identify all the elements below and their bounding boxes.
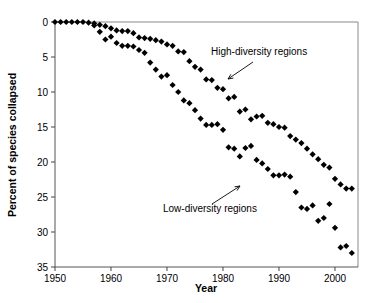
data-point xyxy=(304,206,310,212)
data-point xyxy=(315,218,321,224)
x-tick-label: 1970 xyxy=(156,273,179,284)
x-tick-label: 1990 xyxy=(268,273,291,284)
data-point xyxy=(63,19,69,25)
data-point xyxy=(130,30,136,36)
series-low-diversity-regions xyxy=(91,22,355,256)
data-point xyxy=(343,243,349,249)
data-point xyxy=(326,165,332,171)
data-point xyxy=(170,43,176,49)
data-point xyxy=(265,166,271,172)
data-point xyxy=(287,174,293,180)
data-point xyxy=(248,116,254,122)
data-point xyxy=(254,157,260,163)
data-point xyxy=(259,113,265,119)
low-diversity-annotation-arrow-line xyxy=(212,186,240,204)
data-point xyxy=(237,109,243,115)
data-point xyxy=(310,202,316,208)
data-point xyxy=(58,19,64,25)
data-point xyxy=(293,137,299,143)
y-tick-label: 5 xyxy=(42,52,48,63)
y-tick-label: 25 xyxy=(37,192,49,203)
data-point xyxy=(86,20,92,26)
x-axis-title: Year xyxy=(195,282,217,294)
data-point xyxy=(147,60,153,66)
y-tick-label: 20 xyxy=(37,157,49,168)
data-point xyxy=(287,133,293,139)
data-point xyxy=(97,22,103,28)
data-point xyxy=(164,72,170,78)
data-point xyxy=(209,122,215,128)
data-point xyxy=(181,97,187,103)
data-point xyxy=(108,34,114,40)
data-point xyxy=(186,58,192,64)
data-point xyxy=(142,50,148,56)
data-point xyxy=(158,74,164,80)
data-point xyxy=(102,36,108,42)
data-point xyxy=(203,122,209,128)
data-point xyxy=(181,49,187,55)
low-diversity-annotation-text: Low-diversity regions xyxy=(163,203,257,214)
data-point xyxy=(209,77,215,83)
data-point xyxy=(52,19,58,25)
data-point xyxy=(192,107,198,113)
data-point xyxy=(147,36,153,42)
data-point xyxy=(170,82,176,88)
data-point xyxy=(338,181,344,187)
data-point xyxy=(69,19,75,25)
data-point xyxy=(164,41,170,47)
data-point xyxy=(248,143,254,149)
x-tick-label: 1960 xyxy=(100,273,123,284)
scatter-plot-svg: 05101520253035 195019601970198019902000 … xyxy=(0,0,378,303)
data-point xyxy=(242,106,248,112)
data-point xyxy=(198,67,204,73)
data-point xyxy=(349,250,355,256)
data-point xyxy=(276,172,282,178)
data-point xyxy=(242,145,248,151)
data-point xyxy=(270,172,276,178)
data-point xyxy=(265,120,271,126)
data-point xyxy=(220,127,226,133)
data-point xyxy=(175,48,181,54)
data-point xyxy=(130,43,136,49)
data-point xyxy=(321,215,327,221)
data-point xyxy=(304,146,310,152)
data-point xyxy=(119,28,125,34)
plot-frame xyxy=(55,22,358,267)
chart-figure: 05101520253035 195019601970198019902000 … xyxy=(0,0,378,303)
y-tick-label: 30 xyxy=(37,227,49,238)
data-point xyxy=(125,43,131,49)
data-point xyxy=(80,19,86,25)
data-point xyxy=(74,19,80,25)
data-point xyxy=(198,116,204,122)
chart-annotations: High-diversity regionsLow-diversity regi… xyxy=(163,46,307,214)
y-tick-label: 0 xyxy=(42,17,48,28)
y-axis-title: Percent of species collapsed xyxy=(6,73,18,217)
y-tick-label: 10 xyxy=(37,87,49,98)
data-point xyxy=(338,244,344,250)
y-axis-ticks: 05101520253035 xyxy=(37,17,55,273)
data-point xyxy=(332,176,338,182)
data-point xyxy=(321,162,327,168)
data-point xyxy=(214,85,220,91)
high-diversity-annotation-text: High-diversity regions xyxy=(211,46,307,57)
data-point xyxy=(259,160,265,166)
data-point xyxy=(142,35,148,41)
data-point xyxy=(125,28,131,34)
data-point xyxy=(276,124,282,130)
data-point xyxy=(343,186,349,192)
data-point xyxy=(153,37,159,43)
data-point xyxy=(332,225,338,231)
data-point xyxy=(254,113,260,119)
data-point xyxy=(293,189,299,195)
data-point xyxy=(326,201,332,207)
data-point xyxy=(108,25,114,31)
data-point xyxy=(203,76,209,82)
data-point xyxy=(220,86,226,92)
data-point xyxy=(226,95,232,101)
data-point xyxy=(298,140,304,146)
high-diversity-annotation-arrow-line xyxy=(228,62,253,79)
data-point xyxy=(114,40,120,46)
data-point xyxy=(282,125,288,131)
data-point xyxy=(119,43,125,49)
data-point xyxy=(175,89,181,95)
